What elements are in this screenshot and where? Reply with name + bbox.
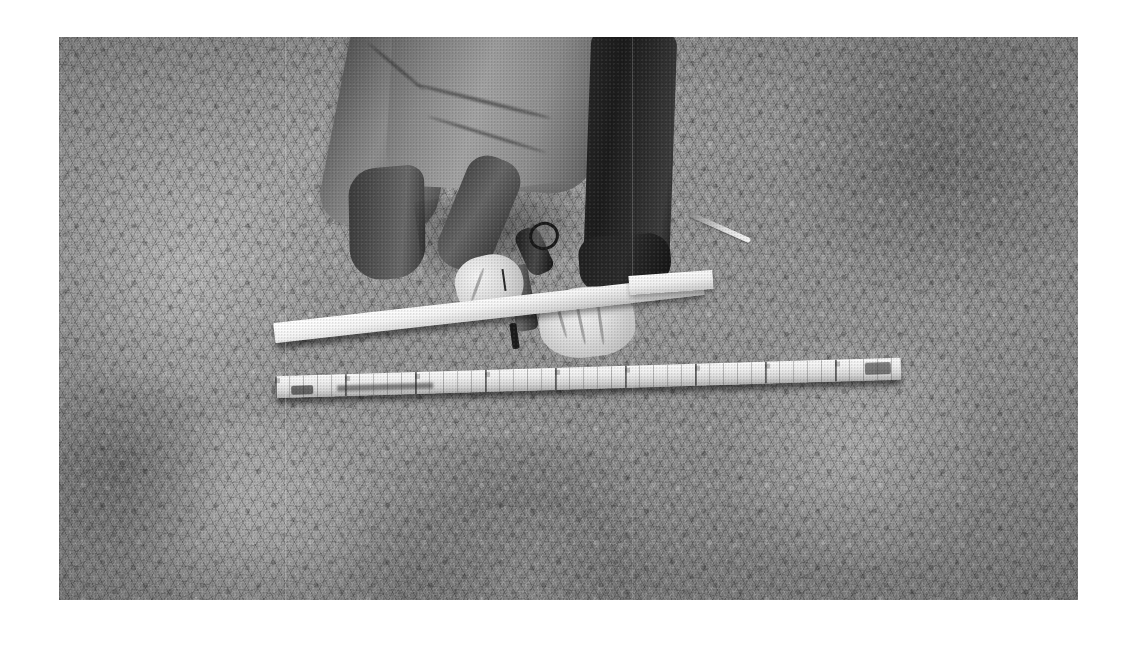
page-root: Overhead black-and-white photograph of a… — [0, 0, 1137, 645]
crouching-person — [59, 37, 1078, 600]
ruler-brand-mark — [865, 362, 891, 375]
photograph — [59, 37, 1078, 600]
ruler-brand-mark — [291, 385, 313, 395]
left-shin — [348, 164, 426, 283]
